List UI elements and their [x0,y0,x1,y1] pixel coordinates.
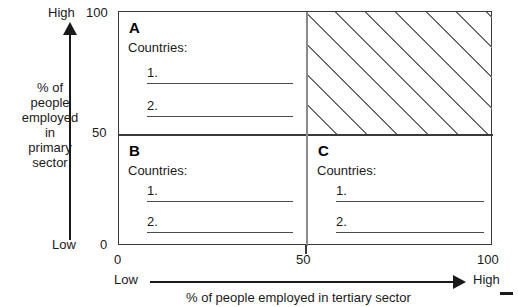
y-tick-label-50: 50 [92,126,106,140]
quadrant-c-heading: Countries: [317,163,376,178]
quadrant-c-entry-1-blank[interactable] [336,201,484,202]
quadrant-c: C Countries: 1. 2. [308,135,492,246]
y-axis-high-label: High [48,6,75,20]
y-tick-label-100: 100 [86,6,108,20]
y-axis-title-line-1: % of [37,80,63,95]
quadrant-a-heading: Countries: [128,40,187,55]
y-axis-title: % of people employed in primary sector [2,80,98,170]
y-axis-title-line-6: sector [32,155,67,170]
x-tick-label-0: 0 [114,252,121,267]
x-axis-arrow-head-icon [453,275,466,289]
quadrant-a-entry-1-blank[interactable] [147,83,293,84]
quadrant-b-heading: Countries: [128,163,187,178]
x-axis-low-label: Low [114,272,138,287]
quadrant-c-entry-2-label: 2. [336,214,347,229]
x-tick-label-100: 100 [477,252,499,267]
corner-dash-mark [500,292,513,295]
y-axis-title-line-2: people [30,95,69,110]
plot-frame: A Countries: 1. 2. B Countries: 1. 2. C … [118,11,492,245]
quadrant-c-entry-2-blank[interactable] [336,232,484,233]
quadrant-b-entry-1-label: 1. [147,183,158,198]
quadrant-b-letter: B [129,142,140,159]
x-axis-title: % of people employed in tertiary sector [186,290,411,305]
y-axis-title-line-5: primary [28,140,71,155]
x-tick-label-50: 50 [296,252,310,267]
x-axis-arrow-shaft [150,281,455,283]
quadrant-a: A Countries: 1. 2. [119,12,306,134]
quadrant-c-entry-1-label: 1. [336,183,347,198]
quadrant-c-letter: C [318,142,329,159]
y-axis-title-line-3: employed [22,110,78,125]
x-axis-high-label: High [473,272,500,287]
quadrant-a-entry-2-blank[interactable] [147,116,293,117]
quadrant-a-entry-2-label: 2. [147,98,158,113]
y-axis-low-label: Low [52,238,76,252]
y-tick-label-0: 0 [100,238,107,252]
quadrant-hatched-top-right [307,12,492,134]
quadrant-b-entry-2-blank[interactable] [147,232,293,233]
quadrant-b-entry-2-label: 2. [147,214,158,229]
quadrant-b: B Countries: 1. 2. [119,135,306,246]
y-axis-title-line-4: in [45,125,55,140]
quadrant-b-entry-1-blank[interactable] [147,201,293,202]
quadrant-a-letter: A [129,19,140,36]
quadrant-a-entry-1-label: 1. [147,65,158,80]
